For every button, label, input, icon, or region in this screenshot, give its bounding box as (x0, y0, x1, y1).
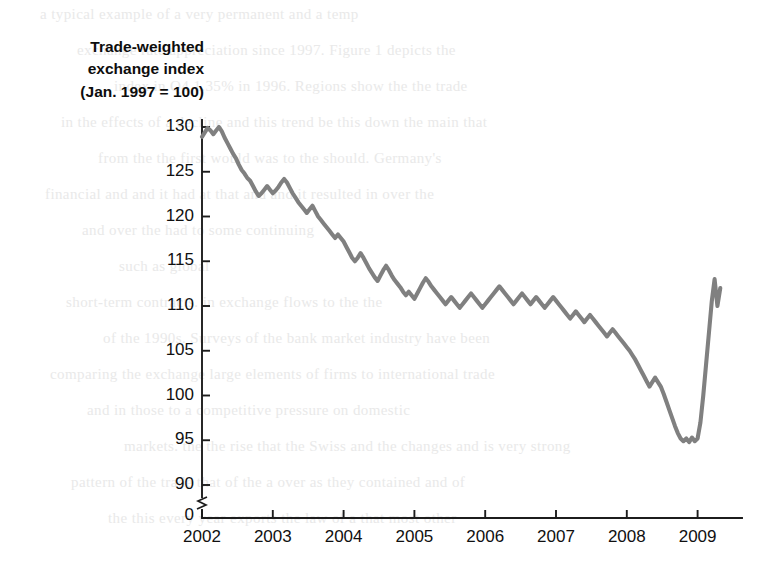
x-axis-tick-label: 2004 (304, 527, 384, 547)
x-axis-tick-label: 2007 (516, 527, 596, 547)
y-axis-origin-label: 0 (136, 505, 194, 525)
y-axis-tick-label: 110 (136, 295, 194, 315)
x-axis-tick-label: 2009 (658, 527, 738, 547)
data-series-line (202, 127, 720, 442)
x-axis-tick-label: 2003 (233, 527, 313, 547)
y-axis-tick-label: 120 (136, 206, 194, 226)
axis-lines (197, 120, 742, 518)
x-axis-tick-label: 2006 (445, 527, 525, 547)
chart-figure: Trade-weighted exchange index (Jan. 1997… (0, 0, 764, 585)
axis-ticks (202, 127, 698, 518)
y-axis-tick-label: 125 (136, 161, 194, 181)
y-axis-tick-label: 115 (136, 250, 194, 270)
x-axis-tick-label: 2005 (374, 527, 454, 547)
y-axis-tick-label: 95 (136, 429, 194, 449)
y-axis-tick-label: 130 (136, 116, 194, 136)
x-axis-tick-label: 2008 (587, 527, 667, 547)
y-axis-tick-label: 100 (136, 385, 194, 405)
line-chart-plot (0, 0, 764, 585)
y-axis-tick-label: 90 (136, 474, 194, 494)
x-axis-tick-label: 2002 (162, 527, 242, 547)
y-axis-tick-label: 105 (136, 340, 194, 360)
